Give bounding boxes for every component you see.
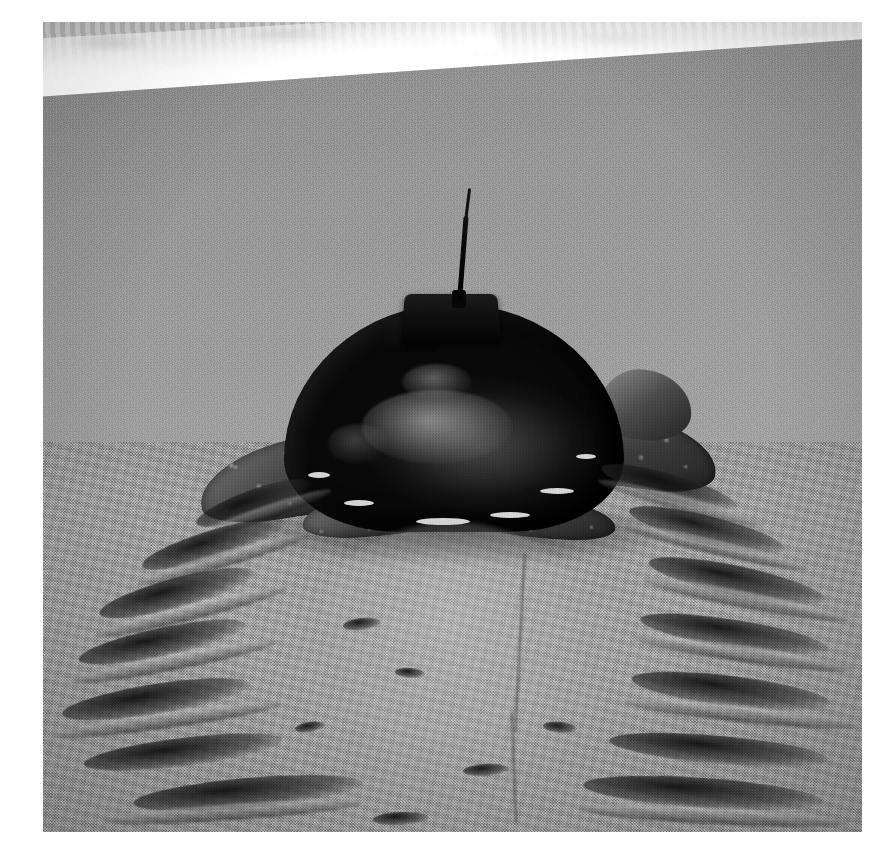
- photograph: [43, 22, 862, 832]
- right-flipper-mark: [608, 726, 830, 773]
- page-root: [0, 0, 896, 862]
- sand-clod: [373, 811, 429, 826]
- turtle-crawl-tracks: [43, 22, 862, 832]
